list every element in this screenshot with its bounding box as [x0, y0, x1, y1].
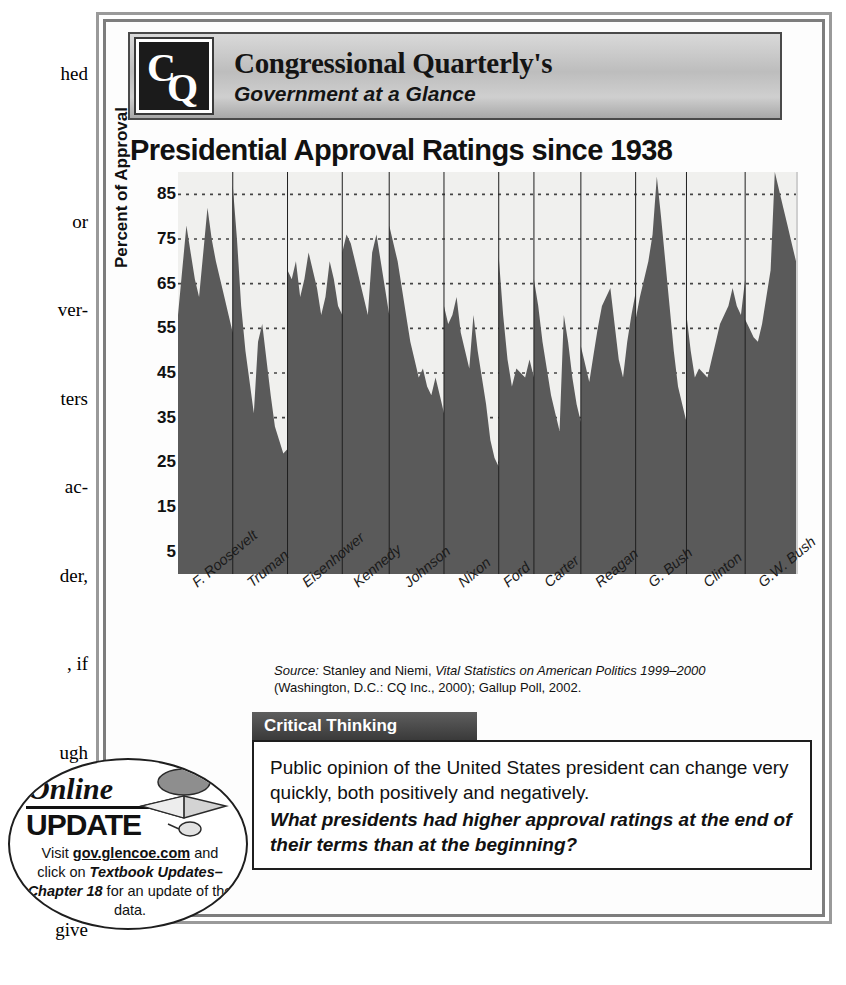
- critical-thinking-question: What presidents had higher approval rati…: [270, 807, 794, 857]
- online-update-update-word: UPDATE: [26, 808, 141, 842]
- source-text-1: Stanley and Niemi,: [319, 663, 435, 678]
- y-tick-label: 25: [157, 452, 176, 472]
- online-update-badge[interactable]: Online UPDATE Visit gov.glencoe.com and …: [8, 758, 248, 930]
- margin-line: or: [0, 207, 88, 237]
- chart-container: Percent of Approval 85756555453525155 F.…: [106, 172, 822, 642]
- banner-text-group: Congressional Quarterly's Government at …: [234, 46, 552, 106]
- y-axis-label: Percent of Approval: [112, 107, 132, 268]
- open-book-and-mouse-icon: [138, 766, 230, 840]
- x-axis-labels: F. RooseveltTrumanEisenhowerKennedyJohns…: [178, 578, 798, 668]
- approval-area-series: [178, 172, 796, 574]
- update-bold-2: Chapter 18: [28, 883, 103, 899]
- cq-logo-icon: C Q: [136, 39, 212, 113]
- margin-line: ver-: [0, 295, 88, 325]
- banner-subtitle: Government at a Glance: [234, 81, 552, 106]
- margin-line: ac-: [0, 472, 88, 502]
- y-tick-label: 75: [157, 229, 176, 249]
- approval-area-chart: [178, 172, 796, 574]
- y-tick-label: 85: [157, 184, 176, 204]
- critical-thinking-tab: Critical Thinking: [252, 712, 477, 740]
- banner-title: Congressional Quarterly's: [234, 46, 552, 80]
- y-tick-label: 45: [157, 363, 176, 383]
- y-tick-label: 35: [157, 408, 176, 428]
- cq-logo-q: Q: [167, 64, 198, 111]
- source-note: Source: Stanley and Niemi, Vital Statist…: [274, 662, 774, 696]
- margin-line: ters: [0, 384, 88, 414]
- margin-line: , if: [0, 649, 88, 679]
- update-suffix: for an update of the data.: [103, 883, 233, 918]
- source-text-2: (Washington, D.C.: CQ Inc., 2000); Gallu…: [274, 680, 581, 695]
- y-tick-label: 65: [157, 274, 176, 294]
- source-italic-1: Vital Statistics on American Politics: [435, 663, 637, 678]
- critical-thinking-statement: Public opinion of the United States pres…: [270, 755, 794, 805]
- y-tick-label: 5: [167, 542, 176, 562]
- y-tick-label: 15: [157, 497, 176, 517]
- source-label: Source:: [274, 663, 319, 678]
- margin-line: der,: [0, 561, 88, 591]
- chart-plot-area: [178, 172, 798, 574]
- margin-line: hed: [0, 59, 88, 89]
- y-tick-label: 55: [157, 318, 176, 338]
- online-update-instructions: Visit gov.glencoe.com and click on Textb…: [10, 844, 248, 920]
- update-url-link[interactable]: gov.glencoe.com: [73, 845, 190, 861]
- y-axis-ticks: 85756555453525155: [134, 172, 176, 574]
- critical-thinking-box: Public opinion of the United States pres…: [252, 740, 812, 870]
- source-italic-2: 1999–2000: [640, 663, 705, 678]
- chart-title: Presidential Approval Ratings since 1938: [130, 134, 672, 167]
- update-visit-prefix: Visit: [42, 845, 73, 861]
- online-update-online-word: Online: [28, 772, 113, 806]
- margin-line: ugh: [0, 738, 88, 768]
- cq-header-banner: C Q Congressional Quarterly's Government…: [128, 32, 782, 120]
- update-bold-1: Textbook Updates–: [90, 864, 223, 880]
